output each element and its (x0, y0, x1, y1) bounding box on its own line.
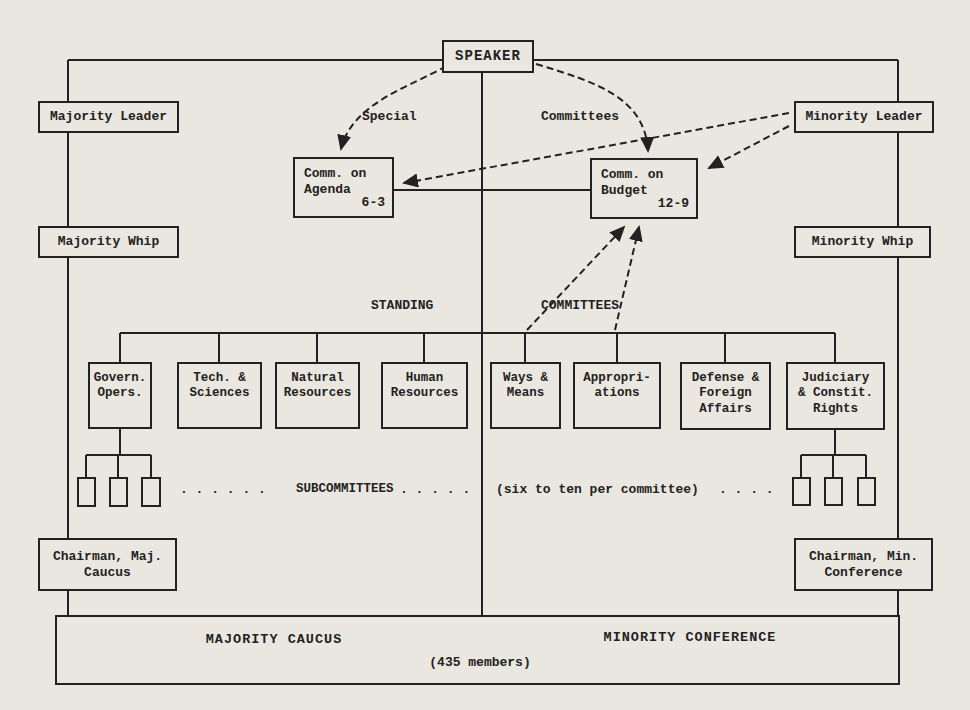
minority-whip-box: Minority Whip (794, 226, 931, 258)
subcommittee-tree-left (86, 429, 151, 478)
minority-leader-to-budget-arrow (709, 126, 789, 168)
committee-natural-resources-box: Natural Resources (275, 362, 360, 429)
speaker-to-agenda-arrow (341, 66, 446, 149)
budget-party-ratio: 12-9 (658, 196, 689, 212)
special-label: Special (362, 109, 417, 124)
committee-on-budget-title: Comm. on Budget (601, 167, 663, 199)
committee-appropriations-box: Appropri- ations (573, 362, 661, 429)
majority-whip-box: Majority Whip (38, 226, 179, 258)
members-count-label: (435 members) (429, 655, 530, 671)
subcommittee-box (78, 478, 95, 506)
subcommittee-box (142, 478, 160, 506)
committees-to-budget-arrow-2 (615, 227, 639, 330)
subcommittee-box (825, 478, 842, 505)
committee-defense-foreign-box: Defense & Foreign Affairs (680, 362, 771, 430)
subcommittee-box (858, 478, 875, 505)
subcommittee-box (793, 478, 810, 505)
agenda-party-ratio: 6-3 (362, 195, 385, 211)
committee-on-agenda-box: Comm. on Agenda 6-3 (293, 157, 394, 218)
subcommittee-dots-mid: . . . . . (400, 482, 470, 497)
subcommittee-tree-right (801, 429, 866, 478)
committees-label: Committees (541, 109, 619, 124)
minority-leader-box: Minority Leader (794, 101, 934, 133)
subcommittees-label: SUBCOMMITTEES (296, 482, 394, 496)
majority-leader-box: Majority Leader (38, 101, 179, 133)
subcommittee-box (110, 478, 127, 506)
committees-to-budget-arrow-1 (527, 227, 624, 330)
subcommittees-note: (six to ten per committee) (496, 482, 699, 497)
speaker-to-budget-arrow (536, 64, 648, 151)
membership-box: MAJORITY CAUCUS MINORITY CONFERENCE (435… (55, 615, 900, 685)
subcommittee-dots-left: . . . . . . (180, 482, 266, 497)
speaker-box: SPEAKER (442, 40, 534, 73)
subcommittee-dots-right: . . . . (719, 482, 774, 497)
committee-tech-sciences-box: Tech. & Sciences (177, 362, 262, 429)
chairman-minority-conference-box: Chairman, Min. Conference (794, 538, 933, 591)
org-chart: SPEAKER Majority Leader Minority Leader … (0, 0, 970, 710)
chairman-majority-caucus-box: Chairman, Maj. Caucus (38, 538, 177, 591)
committee-on-budget-box: Comm. on Budget 12-9 (590, 158, 698, 219)
committee-human-resources-box: Human Resources (381, 362, 468, 429)
majority-caucus-label: MAJORITY CAUCUS (206, 632, 343, 648)
standing-label: STANDING (371, 298, 433, 313)
committee-govern-opers-box: Govern. Opers. (88, 362, 152, 429)
standing-committees-label: COMMITTEES (541, 298, 619, 313)
committee-judiciary-box: Judiciary & Constit. Rights (786, 362, 885, 430)
committee-ways-means-box: Ways & Means (490, 362, 561, 429)
committee-on-agenda-title: Comm. on Agenda (304, 166, 366, 198)
minority-conference-label: MINORITY CONFERENCE (604, 630, 777, 646)
